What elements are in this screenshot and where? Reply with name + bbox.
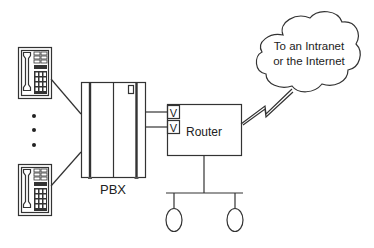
- voice-port-1-label: V: [170, 107, 178, 119]
- desk-phone-icon-top: [19, 48, 52, 99]
- voice-port-2-label: V: [170, 122, 178, 134]
- desk-phone-icon-bottom: [19, 165, 52, 216]
- cloud-text-line1: To an Intranet: [274, 40, 345, 52]
- router-label: Router: [186, 125, 222, 139]
- lan-host-2-icon: [227, 209, 243, 232]
- pbx-cabinet: [82, 83, 146, 180]
- lightning-wan-link-icon-edge: [243, 92, 293, 125]
- pbx-label: PBX: [100, 182, 126, 197]
- ellipsis-dots: [32, 114, 36, 147]
- lan-host-1-icon: [166, 209, 182, 232]
- lightning-wan-link-icon: [241, 89, 292, 124]
- phone-top-pbx-link: [51, 79, 81, 114]
- cloud-text-line2: or the Internet: [273, 55, 345, 67]
- voip-pbx-diagram: PBX V V Router To an Intranet or the Int…: [0, 0, 374, 248]
- phone-bottom-pbx-link: [51, 152, 81, 186]
